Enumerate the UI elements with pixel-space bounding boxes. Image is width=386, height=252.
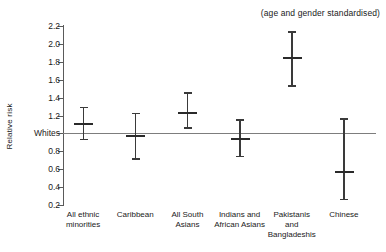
y-tick-label: 0.2: [48, 200, 60, 210]
whisker-cap-lower: [132, 158, 140, 160]
y-tick-label: 0.6: [48, 164, 60, 174]
whisker-line: [343, 118, 345, 199]
point-estimate-marker: [335, 171, 354, 173]
y-axis-title: Relative risk: [0, 0, 18, 252]
point-estimate-marker: [283, 57, 302, 59]
whisker-cap-upper: [132, 113, 140, 115]
whisker-cap-upper: [236, 119, 244, 121]
y-axis-title-text: Relative risk: [5, 103, 14, 149]
whisker-cap-upper: [340, 118, 348, 120]
y-tick-label: 1.6: [48, 75, 60, 85]
whisker-cap-lower: [288, 85, 296, 87]
chart-annotation: (age and gender standardised): [261, 8, 380, 18]
whisker-cap-upper: [80, 107, 88, 109]
point-estimate-marker: [126, 135, 145, 137]
whisker-cap-lower: [184, 127, 192, 129]
point-estimate-marker: [178, 112, 197, 114]
y-tick-label: 1.2: [48, 111, 60, 121]
whites-reference-line: [63, 133, 376, 134]
y-tick-label: 0.4: [48, 182, 60, 192]
whisker-line: [187, 92, 189, 127]
whisker-cap-lower: [340, 199, 348, 201]
y-tick-label: 2.0: [48, 39, 60, 49]
y-tick-label: 1.8: [48, 57, 60, 67]
whisker-cap-lower: [236, 156, 244, 158]
y-axis-spine: [63, 25, 64, 206]
whisker-cap-lower: [80, 139, 88, 141]
y-tick-label: 1.4: [48, 93, 60, 103]
plot-area: 2.22.01.81.61.41.2Whites0.80.60.40.2: [63, 26, 376, 205]
x-category-label-5: Chinese: [305, 210, 383, 220]
y-tick-label: 2.2: [48, 21, 60, 31]
y-tick-label: Whites: [34, 128, 60, 138]
point-estimate-marker: [74, 123, 93, 125]
point-estimate-marker: [231, 138, 250, 140]
whisker-cap-upper: [288, 31, 296, 33]
y-tick-label: 0.8: [48, 146, 60, 156]
relative-risk-error-bar-chart: (age and gender standardised) Relative r…: [0, 0, 386, 252]
whisker-cap-upper: [184, 92, 192, 94]
